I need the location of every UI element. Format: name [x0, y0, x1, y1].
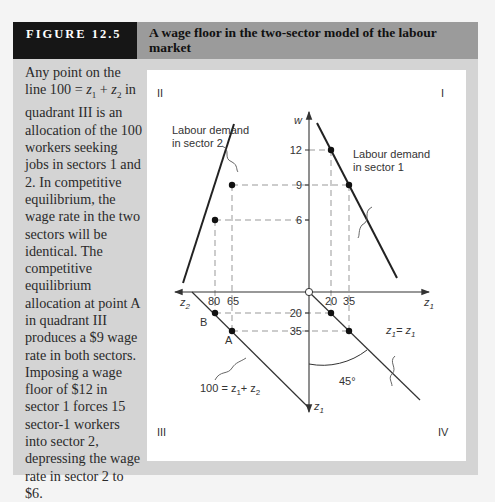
identity-line — [309, 292, 420, 400]
z1-axis-label: z1 — [423, 296, 434, 311]
quadrant-i-label: I — [441, 87, 444, 99]
quadrant-ii-label: II — [157, 87, 163, 99]
constraint-line-label: 100 = z1+ z2 — [200, 382, 261, 397]
angle-label: 45° — [339, 375, 356, 387]
demand-sector2-label: Labour demand — [172, 124, 249, 136]
identity-line-label: z1= z1 — [385, 324, 415, 339]
quadrant-iii-label: III — [157, 426, 166, 438]
w-tick-12: 12 — [290, 144, 302, 156]
figure-title: A wage floor in the two-sector model of … — [137, 22, 478, 59]
z2-axis-label: z2 — [179, 296, 191, 311]
w-tick-6: 6 — [296, 214, 302, 226]
w-tick-9: 9 — [296, 179, 302, 191]
point-b — [212, 310, 218, 316]
z2-tick-65: 65 — [227, 295, 239, 307]
figure-number: FIGURE 12.5 — [13, 22, 137, 59]
angle-arc — [309, 350, 367, 365]
demand-sector2-label-2: in sector 2 — [172, 137, 223, 149]
figure-header: FIGURE 12.5 A wage floor in the two-sect… — [13, 22, 478, 59]
caption-text-rest: in quadrant III is an allocation of the … — [25, 81, 142, 501]
z1-tick-35: 35 — [343, 295, 355, 307]
z1down-tick-20: 20 — [290, 307, 302, 319]
four-quadrant-diagram: II I III IV w z1 z2 z1 12 9 6 20 35 80 6… — [147, 70, 466, 461]
z2-tick-80: 80 — [208, 295, 220, 307]
point-a-label: A — [225, 334, 233, 346]
w-axis-label: w — [294, 114, 303, 126]
demand-sector1-label: Labour demand — [353, 148, 430, 160]
caption-plus: + — [96, 81, 111, 97]
z1-tick-20: 20 — [325, 295, 337, 307]
demand-sector1-label-2: in sector 1 — [353, 161, 404, 173]
figure-body: Any point on the line 100 = z1 + z2 in q… — [13, 59, 478, 475]
z1down-tick-35: 35 — [290, 325, 302, 337]
demand-sector1-line — [317, 123, 397, 278]
point-b-label: B — [200, 316, 207, 328]
figure-caption: Any point on the line 100 = z1 + z2 in q… — [25, 64, 143, 502]
z1-down-axis-label: z1 — [313, 400, 324, 415]
quadrant-iv-label: IV — [438, 426, 449, 438]
origin-point — [305, 288, 312, 295]
chart-panel: II I III IV w z1 z2 z1 12 9 6 20 35 80 6… — [147, 70, 466, 461]
